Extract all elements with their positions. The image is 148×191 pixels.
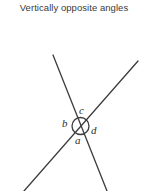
angle-label-a: a (75, 135, 81, 146)
diagram-page: Vertically opposite angles c b d a (0, 0, 148, 191)
line-lower-left-to-upper-right (24, 61, 138, 191)
angle-label-d: d (91, 125, 97, 136)
angle-label-c: c (79, 105, 84, 116)
angle-label-b: b (62, 118, 68, 129)
vertically-opposite-angles-figure (0, 0, 148, 191)
